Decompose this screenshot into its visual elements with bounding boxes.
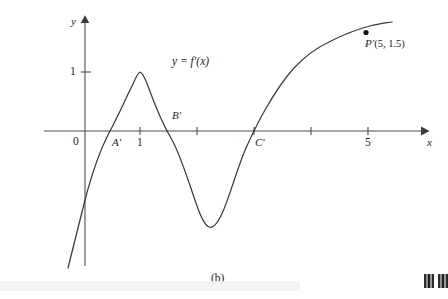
point-label-p-prime: P′(5, 1.5) <box>365 38 405 50</box>
point-label-p-prime-coords: (5, 1.5) <box>374 38 405 49</box>
point-p-prime-marker <box>363 30 368 35</box>
y-axis-label: y <box>71 16 76 27</box>
x-axis-arrow-icon <box>421 127 430 136</box>
origin-label: 0 <box>73 136 79 148</box>
y-axis-tick-label-1: 1 <box>70 66 76 78</box>
point-label-c-prime: C′ <box>255 137 265 148</box>
figure-container: y x 0 1 1 5 A′ B′ C′ P′(5, 1.5) y = f′(x… <box>0 0 448 299</box>
point-label-a-prime: A′ <box>112 137 121 148</box>
point-label-b-prime: B′ <box>172 110 181 121</box>
function-label: y = f′(x) <box>172 56 209 68</box>
scan-artifact-right <box>438 274 448 288</box>
scan-artifact-left <box>424 274 434 288</box>
x-axis-tick-label-1: 1 <box>137 137 143 149</box>
point-label-p-prime-name: P′ <box>365 37 374 49</box>
scan-smudge-bottom <box>0 281 300 291</box>
y-axis-arrow-icon <box>81 15 90 23</box>
x-axis-tick-label-5: 5 <box>365 137 371 149</box>
x-axis-label: x <box>427 137 432 148</box>
